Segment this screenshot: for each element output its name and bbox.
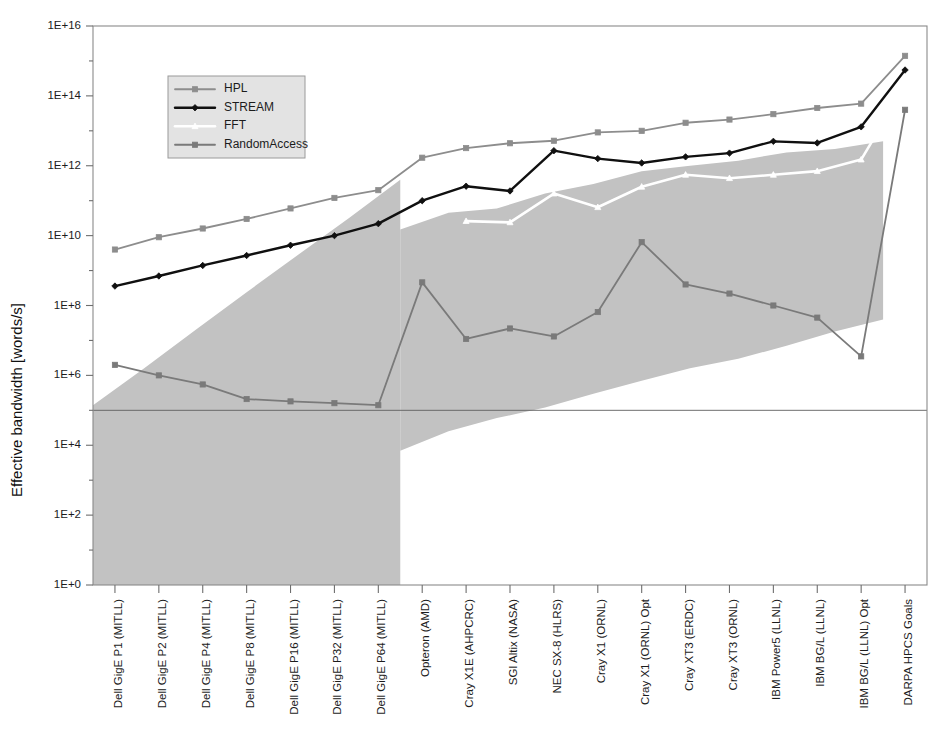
x-tick-label: Dell GigE P64 (MITLL) <box>375 599 387 715</box>
series-marker <box>595 309 600 314</box>
series-marker <box>639 128 644 133</box>
y-tick-label: 1E+14 <box>47 89 81 101</box>
series-marker <box>815 315 820 320</box>
series-marker <box>200 262 206 268</box>
x-axis: Dell GigE P1 (MITLL)Dell GigE P2 (MITLL)… <box>112 585 914 715</box>
x-tick-label: Dell GigE P8 (MITLL) <box>244 599 256 708</box>
series-marker <box>464 336 469 341</box>
x-tick-label: Cray X1E (AHPCRC) <box>463 599 475 708</box>
y-axis: 1E+01E+21E+41E+61E+81E+101E+121E+141E+16 <box>47 19 93 590</box>
series-marker <box>332 401 337 406</box>
y-tick-label: 1E+0 <box>54 578 81 590</box>
y-tick-label: 1E+8 <box>54 299 81 311</box>
y-tick-label: 1E+10 <box>47 229 81 241</box>
series-marker <box>727 291 732 296</box>
series-marker <box>859 354 864 359</box>
x-tick-label: Cray X1 (ORNL) <box>595 599 607 684</box>
series-marker <box>726 150 732 156</box>
x-tick-label: IBM BG/L (LLNL) <box>814 599 826 687</box>
series-marker <box>243 252 249 258</box>
series-marker <box>463 183 469 189</box>
series-marker <box>192 87 197 92</box>
series-marker <box>287 242 293 248</box>
series-marker <box>814 140 820 146</box>
series-marker <box>859 101 864 106</box>
effective-bandwidth-chart: Effective bandwidth [words/s] 1E+01E+21E… <box>0 0 950 729</box>
series-marker <box>244 216 249 221</box>
series-marker <box>815 105 820 110</box>
series-marker <box>376 188 381 193</box>
series-marker <box>771 303 776 308</box>
series-marker <box>902 83 908 89</box>
x-tick-label: Cray X1 (ORNL) Opt <box>639 598 651 705</box>
y-tick-label: 1E+2 <box>54 508 81 520</box>
x-tick-label: Dell GigE P4 (MITLL) <box>200 599 212 708</box>
y-tick-label: 1E+6 <box>54 368 81 380</box>
legend-label-fft: FFT <box>224 118 247 132</box>
series-marker <box>771 112 776 117</box>
y-axis-title-group: Effective bandwidth [words/s] <box>8 303 25 497</box>
series-marker <box>288 206 293 211</box>
legend-label-randomaccess: RandomAccess <box>224 137 308 151</box>
x-tick-label: Cray XT3 (ORNL) <box>727 599 739 691</box>
x-tick-label: Dell GigE P1 (MITLL) <box>112 599 124 708</box>
series-marker <box>639 240 644 245</box>
series-marker <box>638 160 644 166</box>
y-tick-label: 1E+4 <box>54 438 82 450</box>
series-marker <box>902 107 907 112</box>
chart-legend: HPLSTREAMFFTRandomAccess <box>168 76 308 158</box>
y-axis-title: Effective bandwidth [words/s] <box>8 303 25 497</box>
x-tick-label: SGI Altix (NASA) <box>507 599 519 685</box>
series-marker <box>464 146 469 151</box>
series-marker <box>200 382 205 387</box>
series-marker <box>770 138 776 144</box>
x-tick-label: Dell GigE P32 (MITLL) <box>331 599 343 715</box>
series-marker <box>112 247 117 252</box>
series-marker <box>420 155 425 160</box>
series-marker <box>727 117 732 122</box>
legend-label-hpl: HPL <box>224 81 248 95</box>
shaded-bands-layer <box>93 141 883 585</box>
series-marker <box>507 326 512 331</box>
x-tick-label: Cray XT3 (ERDC) <box>683 599 695 691</box>
series-marker <box>551 138 556 143</box>
series-marker <box>683 282 688 287</box>
series-marker <box>507 141 512 146</box>
x-tick-label: Dell GigE P16 (MITLL) <box>288 599 300 715</box>
series-marker <box>112 283 118 289</box>
series-marker <box>376 403 381 408</box>
series-marker <box>112 362 117 367</box>
x-tick-label: IBM Power5 (LLNL) <box>770 599 782 700</box>
legend-label-stream: STREAM <box>224 100 274 114</box>
x-tick-label: DARPA HPCS Goals <box>902 599 914 706</box>
series-marker <box>683 120 688 125</box>
series-marker <box>420 280 425 285</box>
x-tick-label: Opteron (AMD) <box>419 599 431 677</box>
series-marker <box>551 334 556 339</box>
series-marker <box>682 154 688 160</box>
series-marker <box>156 235 161 240</box>
series-marker <box>244 396 249 401</box>
series-marker <box>192 142 197 147</box>
series-marker <box>595 155 601 161</box>
series-marker <box>902 53 907 58</box>
y-tick-label: 1E+16 <box>47 19 81 31</box>
y-tick-label: 1E+12 <box>47 159 81 171</box>
series-marker <box>288 399 293 404</box>
series-marker <box>595 130 600 135</box>
series-marker <box>156 373 161 378</box>
series-marker <box>200 226 205 231</box>
x-tick-label: Dell GigE P2 (MITLL) <box>156 599 168 708</box>
series-marker <box>332 195 337 200</box>
chart-container: Effective bandwidth [words/s] 1E+01E+21E… <box>0 0 950 729</box>
x-tick-label: IBM BG/L (LLNL) Opt <box>858 598 870 708</box>
x-tick-label: NEC SX-8 (HLRS) <box>551 599 563 694</box>
mitll-cluster-spread-band <box>93 180 400 585</box>
series-marker <box>156 273 162 279</box>
